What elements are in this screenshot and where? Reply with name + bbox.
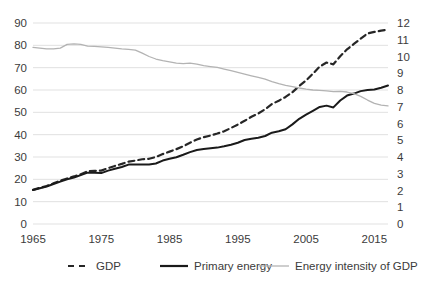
y2-axis-tick-label: 6 <box>397 118 403 130</box>
y2-axis-tick-label: 4 <box>397 151 404 163</box>
y2-axis-tick-label: 8 <box>397 84 403 96</box>
x-axis-tick-label: 1965 <box>20 233 46 245</box>
y2-axis-tick-label: 12 <box>397 17 410 29</box>
y2-axis-tick-label: 7 <box>397 101 403 113</box>
x-axis-tick-label: 2005 <box>293 233 319 245</box>
x-axis-tick-label: 2015 <box>362 233 388 245</box>
y-axis-tick-label: 60 <box>14 84 27 96</box>
y2-axis-tick-label: 2 <box>397 185 403 197</box>
y2-axis-tick-label: 11 <box>397 34 409 46</box>
line-chart: 0102030405060708090 0123456789101112 196… <box>0 0 435 281</box>
x-axis-tick-label: 1985 <box>157 233 183 245</box>
x-axis-tick-label: 1995 <box>225 233 251 245</box>
y-axis-tick-label: 40 <box>14 129 27 141</box>
chart-container: 0102030405060708090 0123456789101112 196… <box>0 0 435 281</box>
y2-axis-tick-label: 3 <box>397 168 403 180</box>
y-axis-tick-label: 90 <box>14 17 27 29</box>
y2-axis-tick-label: 9 <box>397 67 403 79</box>
y-axis-tick-label: 80 <box>14 39 27 51</box>
y2-axis-tick-label: 5 <box>397 134 403 146</box>
y2-axis-tick-label: 1 <box>397 201 403 213</box>
y-axis-tick-label: 50 <box>14 106 27 118</box>
y-axis-tick-label: 20 <box>14 173 27 185</box>
y-axis-tick-label: 0 <box>21 218 27 230</box>
y2-axis-tick-label: 10 <box>397 51 410 63</box>
x-axis-tick-label: 1975 <box>88 233 114 245</box>
y-axis-tick-label: 30 <box>14 151 27 163</box>
y-axis-tick-label: 70 <box>14 62 27 74</box>
chart-legend: GDPPrimary energyEnergy intensity of GDP <box>68 260 418 272</box>
y-axis-tick-label: 10 <box>14 196 27 208</box>
legend-label: Energy intensity of GDP <box>295 260 418 272</box>
y2-axis-tick-label: 0 <box>397 218 403 230</box>
legend-label: GDP <box>96 260 121 272</box>
